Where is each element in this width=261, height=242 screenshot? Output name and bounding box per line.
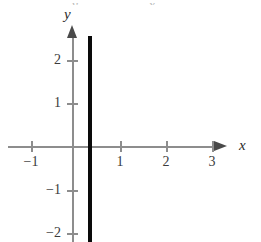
y-tick-neg2	[67, 233, 78, 235]
x-axis-line	[8, 146, 216, 148]
top-caption-remnant: y x	[0, 0, 261, 5]
y-tick-label-2: 2	[54, 52, 61, 68]
x-tick-2	[166, 141, 168, 152]
y-axis-line	[72, 30, 74, 242]
x-axis-arrow-icon	[214, 141, 227, 151]
y-tick-1	[67, 103, 78, 105]
x-tick-label-neg1: −1	[24, 154, 39, 170]
y-axis-label: y	[64, 6, 71, 23]
plotted-vertical-line	[88, 36, 92, 242]
x-tick-label-3: 3	[209, 154, 216, 170]
graph-figure: y x −1 1 2 3 2 1 −1 −2 x y	[0, 0, 261, 242]
y-axis-arrow-icon	[67, 25, 77, 38]
x-tick-neg1	[31, 141, 33, 152]
x-tick-label-1: 1	[117, 154, 124, 170]
y-tick-label-1: 1	[54, 95, 61, 111]
y-tick-2	[67, 60, 78, 62]
x-tick-label-2: 2	[163, 154, 170, 170]
x-tick-1	[120, 141, 122, 152]
x-axis-label: x	[239, 137, 246, 154]
y-tick-label-neg1: −1	[46, 182, 61, 198]
x-tick-3	[212, 141, 214, 152]
y-tick-label-neg2: −2	[46, 225, 61, 241]
y-tick-neg1	[67, 190, 78, 192]
